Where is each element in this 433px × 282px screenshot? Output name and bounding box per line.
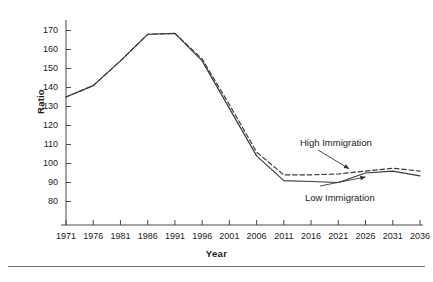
x-tick-label: 1991 xyxy=(160,231,190,241)
chart-figure: Ratio Year 8090100110120130140150160170 … xyxy=(0,0,433,282)
x-tick-label: 2021 xyxy=(323,231,353,241)
x-tick-label: 1986 xyxy=(133,231,163,241)
x-tick-label: 2011 xyxy=(269,231,299,241)
x-tick-label: 2006 xyxy=(242,231,272,241)
y-tick-label: 140 xyxy=(34,82,58,92)
x-tick-label: 1971 xyxy=(51,231,81,241)
x-tick-label: 2016 xyxy=(296,231,326,241)
y-tick-label: 170 xyxy=(34,25,58,35)
x-tick-label: 1981 xyxy=(105,231,135,241)
y-tick-label: 80 xyxy=(34,196,58,206)
y-tick-label: 110 xyxy=(34,139,58,149)
annotation-label-high-immigration: High Immigration xyxy=(300,137,372,148)
x-tick-label: 2031 xyxy=(378,231,408,241)
chart-series-layer xyxy=(66,33,420,182)
x-tick-label: 1996 xyxy=(187,231,217,241)
series-line-low-immigration xyxy=(66,33,420,182)
series-line-high-immigration xyxy=(66,33,420,175)
x-tick-label: 2036 xyxy=(405,231,433,241)
chart-annotation-leaders xyxy=(318,150,366,186)
y-tick-label: 120 xyxy=(34,120,58,130)
x-tick-label: 2026 xyxy=(351,231,381,241)
y-tick-label: 150 xyxy=(34,63,58,73)
x-tick-label: 1976 xyxy=(78,231,108,241)
x-tick-label: 2001 xyxy=(214,231,244,241)
x-axis-title: Year xyxy=(0,248,433,259)
y-tick-label: 100 xyxy=(34,158,58,168)
footer-rule xyxy=(8,266,425,267)
y-tick-label: 160 xyxy=(34,44,58,54)
y-tick-label: 130 xyxy=(34,101,58,111)
y-tick-label: 90 xyxy=(34,177,58,187)
annotation-label-low-immigration: Low Immigration xyxy=(305,192,375,203)
